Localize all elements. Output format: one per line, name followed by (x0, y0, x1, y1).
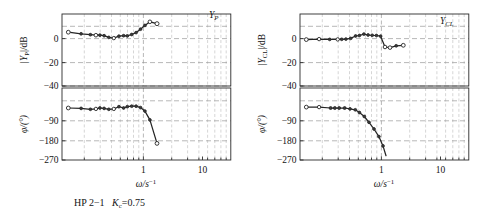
left-magnitude-ylabel: |YP|/dB (19, 36, 30, 63)
left-xlabel-sup: −1 (149, 178, 156, 185)
figure-caption: HP 2−1 Kc=0.75 (74, 197, 145, 209)
right-magnitude-ytick-1: −20 (282, 58, 297, 68)
svg-text:φ/(°): φ/(°) (19, 115, 30, 133)
left-xtick-10: 10 (198, 165, 208, 175)
right-mag-ylabel-sub: CL (261, 50, 268, 59)
left-magnitude-ytick-1: −20 (44, 58, 59, 68)
right-phase-ytick-1: −180 (277, 136, 297, 146)
right-phase-ytick-2: −270 (277, 155, 297, 165)
svg-text:|YP|/dB: |YP|/dB (19, 36, 30, 63)
right-xlabel-sup: −1 (387, 178, 394, 185)
bode-figure-container: 0 −20 −40 |YP|/dB YP (0, 0, 498, 214)
bode-plot-svg: 0 −20 −40 |YP|/dB YP (0, 0, 498, 214)
svg-text:φ/(°): φ/(°) (257, 115, 268, 133)
left-magnitude-ytick-0: 0 (54, 34, 59, 44)
left-curve-label-sub: P (213, 14, 218, 21)
left-xtick-1: 1 (141, 165, 146, 175)
caption-designation: HP 2−1 (74, 197, 105, 208)
left-phase-ytick-0: −90 (44, 116, 59, 126)
caption-gain-value: =0.75 (122, 197, 145, 208)
left-magnitude-ytick-2: −40 (44, 81, 59, 91)
right-xtick-1: 1 (379, 165, 384, 175)
right-xtick-10: 10 (436, 165, 446, 175)
right-curve-label-sub: CL (445, 20, 454, 27)
left-phase-ylabel: φ/(°) (19, 115, 30, 133)
right-phase-ylabel: φ/(°) (257, 115, 268, 133)
right-xlabel-symbol: ω/s (374, 179, 387, 189)
left-xlabel-symbol: ω/s (136, 179, 149, 189)
svg-text:|YCL|/dB: |YCL|/dB (257, 34, 268, 66)
left-phase-ytick-2: −270 (39, 155, 59, 165)
right-magnitude-ylabel: |YCL|/dB (257, 34, 268, 66)
right-magnitude-ytick-0: 0 (292, 34, 297, 44)
right-mag-ylabel-suffix: |/dB (257, 34, 267, 50)
right-magnitude-ytick-2: −40 (282, 81, 297, 91)
left-phase-ytick-1: −180 (39, 136, 59, 146)
figure-background (0, 0, 498, 214)
right-phase-ytick-0: −90 (282, 116, 297, 126)
left-mag-ylabel-suffix: |/dB (19, 36, 29, 52)
